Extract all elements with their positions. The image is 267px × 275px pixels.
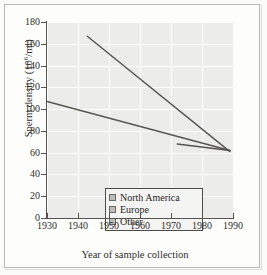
legend-item-europe: Europe [109, 203, 199, 215]
legend-label-europe: Europe [120, 204, 149, 215]
legend-label-north-america: North America [120, 192, 180, 203]
y-axis-tick [41, 174, 47, 175]
y-axis-title: Sperm density (106/ml) [22, 8, 35, 168]
y-axis-tick-label: 40 [0, 169, 40, 179]
y-axis-title-exponent: 6 [22, 57, 30, 61]
series-line-north-america [87, 36, 230, 151]
y-axis-tick [41, 44, 47, 45]
x-axis-tick [140, 213, 141, 219]
x-axis-tick [233, 213, 234, 219]
x-axis-tick-label: 1990 [213, 221, 253, 231]
figure-container: North America Europe Other 0204060801001… [0, 0, 267, 275]
legend-swatch-europe [109, 206, 116, 213]
series-line-europe [47, 102, 230, 151]
plot-area: North America Europe Other [47, 22, 233, 218]
gridline-vertical [233, 22, 234, 218]
y-axis-tick [41, 87, 47, 88]
x-axis-tick [47, 213, 48, 219]
y-axis-tick [41, 196, 47, 197]
x-axis-tick [171, 213, 172, 219]
y-axis-title-base: Sperm density (10 [23, 60, 34, 137]
y-axis-tick [41, 153, 47, 154]
y-axis-tick [41, 109, 47, 110]
y-axis-line [46, 21, 47, 219]
y-axis-tick [41, 22, 47, 23]
x-axis-title: Year of sample collection [20, 249, 250, 260]
y-axis-title-tail: /ml) [23, 39, 34, 57]
legend-item-north-america: North America [109, 191, 199, 203]
legend-swatch-north-america [109, 194, 116, 201]
y-axis-tick-label: 20 [0, 191, 40, 201]
y-axis-tick [41, 66, 47, 67]
x-axis-tick [109, 213, 110, 219]
x-axis-tick [202, 213, 203, 219]
y-axis-tick [41, 131, 47, 132]
x-axis-tick [78, 213, 79, 219]
